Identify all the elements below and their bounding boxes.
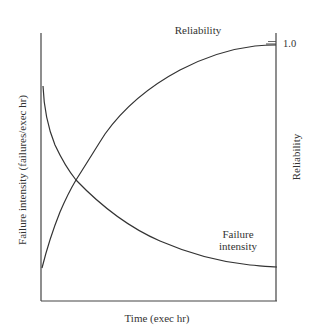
left-axis-title: Failure intensity (failures/exec hr) bbox=[16, 95, 29, 245]
failure-intensity-label-line2: intensity bbox=[219, 240, 257, 252]
failure-reliability-chart: Reliability 1.0 Reliability Failure inte… bbox=[0, 0, 321, 336]
right-axis-title: Reliability bbox=[290, 133, 302, 180]
x-axis-title: Time (exec hr) bbox=[125, 312, 190, 325]
right-axis-tick-label: 1.0 bbox=[283, 38, 296, 49]
reliability-curve-label: Reliability bbox=[175, 24, 222, 36]
failure-intensity-label-line1: Failure bbox=[222, 228, 253, 240]
